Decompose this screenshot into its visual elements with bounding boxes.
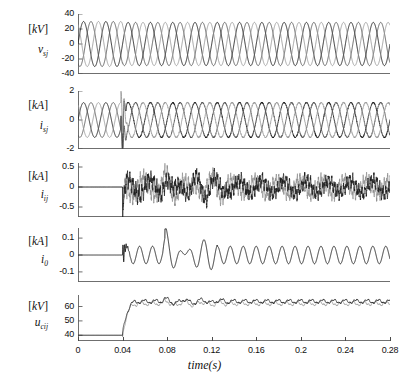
x-tick-mark [212, 337, 213, 341]
x-tick-mark [390, 337, 391, 341]
panel-ucij [78, 295, 390, 341]
y-tick-label: 60 [44, 301, 74, 311]
unit-label-panel-iij: [kA] [8, 170, 48, 182]
y-tick-label: 0 [44, 38, 74, 48]
y-tick-label: -0.5 [44, 201, 74, 211]
y-tick-label: 40 [44, 8, 74, 18]
x-tick-mark [167, 337, 168, 341]
y-tick-label: -20 [44, 53, 74, 63]
x-axis-title: time(s) [0, 358, 409, 373]
x-tick-mark [345, 337, 346, 341]
x-tick-label: 0.12 [192, 345, 232, 355]
x-tick-label: 0.08 [147, 345, 187, 355]
y-tick-label: 40 [44, 329, 74, 339]
x-tick-label: 0.28 [370, 345, 409, 355]
y-tick-label: -40 [44, 68, 74, 78]
y-tick-label: 0 [44, 114, 74, 124]
y-tick-label: 0 [44, 181, 74, 191]
y-tick-label: 2 [44, 85, 74, 95]
variable-label-panel-isj: isj [8, 119, 48, 134]
y-tick-label: -2 [44, 143, 74, 153]
variable-label-panel-vsj: vsj [8, 43, 48, 58]
x-tick-label: 0.24 [325, 345, 365, 355]
panel-isj [78, 91, 390, 149]
y-tick-label: -0.1 [44, 266, 74, 276]
y-tick-label: 20 [44, 23, 74, 33]
x-tick-mark [301, 337, 302, 341]
x-tick-mark [123, 337, 124, 341]
trace-phase-a [78, 22, 390, 67]
unit-label-panel-isj: [kA] [8, 99, 48, 111]
x-tick-mark [78, 337, 79, 341]
unit-label-panel-i0: [kA] [8, 235, 48, 247]
y-tick-label: 0 [44, 249, 74, 259]
panel-vsj [78, 14, 390, 74]
trace-i-0 [78, 229, 390, 270]
variable-label-panel-ucij: ucij [8, 316, 48, 331]
x-tick-label: 0.04 [103, 345, 143, 355]
panel-i0 [78, 228, 390, 282]
x-tick-label: 0.16 [236, 345, 276, 355]
y-tick-label: 0.1 [44, 232, 74, 242]
trace-u-cij-b [78, 297, 390, 335]
x-tick-label: 0.2 [281, 345, 321, 355]
x-tick-mark [256, 337, 257, 341]
variable-label-panel-iij: iij [8, 188, 48, 203]
panel-iij [78, 163, 390, 217]
y-tick-label: 0.5 [44, 161, 74, 171]
y-tick-label: 50 [44, 315, 74, 325]
unit-label-panel-vsj: [kV] [8, 23, 48, 35]
x-tick-label: 0 [58, 345, 98, 355]
variable-label-panel-i0: i0 [8, 253, 48, 268]
trace-u-cij-a [78, 299, 390, 337]
unit-label-panel-ucij: [kV] [8, 300, 48, 312]
figure-container: [kV]vsj40200-20-40[kA]isj20-2[kA]iij0.50… [0, 0, 409, 381]
